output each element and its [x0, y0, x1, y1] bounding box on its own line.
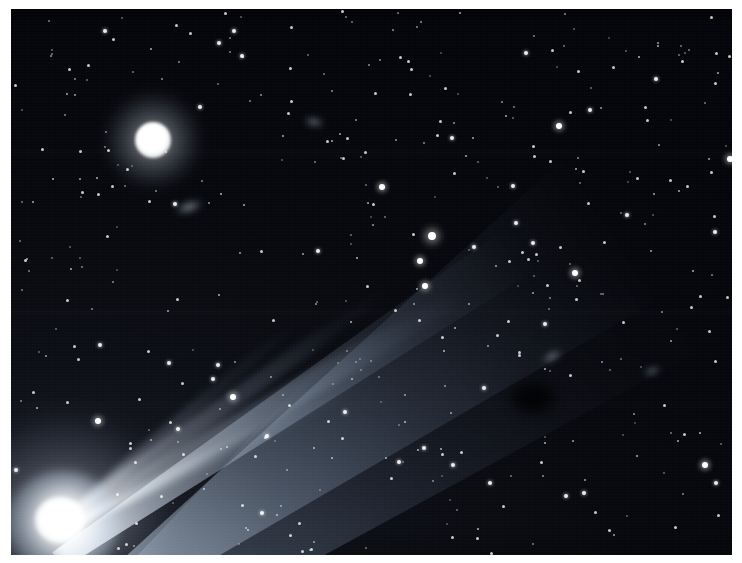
star	[81, 266, 83, 268]
star	[612, 66, 615, 69]
star	[669, 179, 672, 182]
star	[663, 404, 666, 407]
star	[169, 421, 172, 424]
star	[704, 102, 706, 104]
star	[653, 193, 655, 195]
star	[573, 28, 575, 30]
star	[175, 24, 178, 27]
star	[365, 184, 367, 186]
star	[240, 16, 242, 18]
star	[66, 401, 69, 404]
star	[312, 349, 314, 351]
star	[173, 202, 177, 206]
star	[441, 453, 444, 456]
star	[559, 246, 562, 249]
star	[404, 421, 406, 423]
star	[276, 514, 278, 516]
star	[549, 370, 551, 372]
star	[477, 161, 479, 163]
star	[241, 504, 244, 507]
star	[265, 434, 269, 438]
star	[477, 528, 479, 530]
star	[51, 49, 53, 51]
star	[19, 240, 21, 242]
star	[510, 475, 512, 477]
star	[532, 292, 534, 294]
star	[602, 293, 604, 295]
star	[680, 45, 682, 47]
star	[676, 328, 678, 330]
star	[657, 45, 659, 47]
star	[714, 360, 717, 363]
star	[720, 443, 722, 445]
star	[138, 398, 141, 401]
star	[453, 122, 455, 124]
star	[96, 177, 98, 179]
star	[28, 270, 30, 272]
star	[341, 437, 344, 440]
star	[711, 274, 713, 276]
star	[532, 543, 534, 545]
star	[229, 51, 231, 53]
star	[116, 269, 118, 271]
star	[81, 191, 84, 194]
star	[544, 436, 546, 438]
star	[343, 410, 347, 414]
star	[395, 139, 397, 141]
star	[713, 215, 716, 218]
star	[681, 60, 684, 63]
star	[341, 10, 344, 13]
star	[674, 526, 677, 529]
star	[620, 358, 622, 360]
star	[440, 448, 442, 450]
star	[495, 265, 497, 267]
star	[380, 401, 382, 403]
star	[339, 133, 341, 135]
star	[148, 200, 151, 203]
star	[356, 257, 358, 259]
star	[652, 214, 654, 216]
star	[289, 534, 292, 537]
star	[399, 56, 402, 59]
star	[64, 114, 66, 116]
star	[350, 234, 352, 236]
star	[36, 407, 38, 409]
star	[715, 52, 718, 55]
star	[533, 35, 535, 37]
star	[364, 151, 367, 154]
star	[365, 547, 367, 549]
star	[392, 29, 394, 31]
comet-nucleus	[35, 497, 85, 543]
star	[657, 42, 659, 44]
star	[359, 358, 361, 360]
star	[476, 537, 479, 540]
star	[66, 299, 69, 302]
star	[323, 73, 325, 75]
star	[531, 241, 535, 245]
star	[482, 386, 486, 390]
star	[670, 340, 672, 342]
star	[708, 158, 710, 160]
star	[627, 181, 629, 183]
star	[178, 61, 180, 63]
star	[74, 78, 76, 80]
star	[487, 345, 489, 347]
star	[646, 119, 649, 122]
star	[546, 284, 549, 287]
star	[549, 160, 552, 163]
star	[532, 145, 535, 148]
star	[189, 32, 192, 35]
star	[682, 493, 684, 495]
star	[290, 26, 293, 29]
star	[397, 12, 399, 14]
star	[633, 413, 635, 415]
star	[670, 432, 672, 434]
star	[345, 300, 347, 302]
star	[496, 334, 499, 337]
star	[728, 55, 731, 58]
star	[497, 186, 499, 188]
star	[372, 224, 374, 226]
star	[287, 112, 290, 115]
star	[459, 12, 461, 14]
star	[590, 87, 592, 89]
